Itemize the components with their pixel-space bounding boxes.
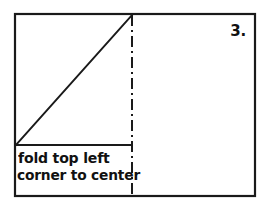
origami-instruction-figure: 3. fold top left corner to center [0,0,268,211]
figure-drawing [0,0,268,211]
